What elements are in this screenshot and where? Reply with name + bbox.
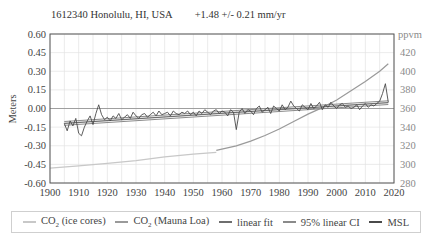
y-tick-label: 0.15	[28, 84, 46, 95]
y-tick-label: 0.60	[28, 29, 46, 40]
legend-label: linear fit	[237, 217, 273, 228]
series-co2-mauna-loa-	[216, 64, 388, 151]
y2-tick-label: 340	[400, 122, 416, 133]
x-tick-label: 2000	[326, 187, 347, 198]
x-tick-label: 2010	[355, 187, 376, 198]
y-axis-label: Meters	[7, 94, 18, 123]
y-axis-left: 0.600.450.300.150.00-0.15-0.30-0.45-0.60	[24, 29, 46, 189]
legend-label: CO2 (ice cores)	[41, 215, 106, 229]
legend-item-msl: MSL	[369, 217, 409, 228]
y2-tick-label: 380	[400, 84, 416, 95]
y-tick-label: -0.15	[24, 122, 46, 133]
legend-label: MSL	[387, 217, 409, 228]
legend-item-linear-fit: linear fit	[219, 217, 273, 228]
legend-swatch	[283, 221, 296, 223]
x-tick-label: 1940	[154, 187, 175, 198]
y2-tick-label: 360	[400, 103, 416, 114]
series-95-linear-ci-upper	[64, 101, 388, 122]
legend-item-co2-mauna-loa: CO2 (Mauna Loa)	[115, 215, 209, 229]
y-tick-label: -0.30	[24, 140, 46, 151]
y-tick-label: -0.45	[24, 159, 46, 170]
legend-swatch	[369, 221, 382, 223]
x-axis: 1900191019201930194019501960197019801990…	[40, 187, 405, 198]
y2-tick-label: 420	[400, 47, 416, 58]
x-tick-label: 2020	[384, 187, 405, 198]
y2-tick-label: 320	[400, 140, 416, 151]
y-tick-label: 0.30	[28, 66, 46, 77]
chart-legend: CO2 (ice cores)CO2 (Mauna Loa)linear fit…	[11, 211, 421, 233]
x-tick-label: 1960	[212, 187, 233, 198]
x-tick-label: 1920	[97, 187, 118, 198]
x-tick-label: 1970	[240, 187, 261, 198]
chart-plot: 0.600.450.300.150.00-0.15-0.30-0.45-0.60…	[0, 0, 440, 210]
y-tick-label: 0.00	[28, 103, 46, 114]
y2-unit-label: ppvm	[398, 29, 422, 40]
legend-swatch	[23, 221, 36, 223]
y-tick-label: 0.45	[28, 47, 46, 58]
grid-lines	[50, 34, 394, 183]
x-tick-label: 1980	[269, 187, 290, 198]
y2-tick-label: 300	[400, 159, 416, 170]
series-linear-fit	[64, 103, 388, 124]
legend-swatch	[219, 221, 232, 223]
x-tick-label: 1990	[298, 187, 319, 198]
x-tick-label: 1900	[40, 187, 61, 198]
series-co2-ice-cores-	[50, 152, 216, 168]
x-tick-label: 1930	[126, 187, 147, 198]
legend-label: 95% linear CI	[301, 217, 360, 228]
x-tick-label: 1950	[183, 187, 204, 198]
data-series	[50, 64, 388, 168]
legend-label: CO2 (Mauna Loa)	[133, 215, 209, 229]
series-msl	[64, 84, 388, 136]
x-tick-label: 1910	[68, 187, 89, 198]
legend-item-co2-ice: CO2 (ice cores)	[23, 215, 106, 229]
legend-swatch	[115, 221, 128, 223]
series-95-linear-ci-lower	[64, 105, 388, 126]
legend-item-ci: 95% linear CI	[283, 217, 360, 228]
y2-tick-label: 400	[400, 66, 416, 77]
y-axis-right: ppvm420400380360340320300280	[398, 29, 422, 189]
